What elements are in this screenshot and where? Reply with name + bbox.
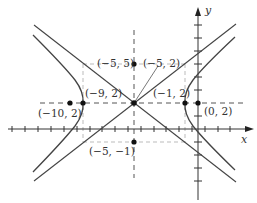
focus-left-point [67, 100, 72, 105]
label-vertex-left: (−9, 2) [85, 87, 122, 99]
y-axis-arrow-icon [195, 7, 201, 16]
label-conj-top: (−5, 5) [97, 57, 134, 69]
focus-right-point [195, 100, 200, 105]
x-axis-label: x [241, 133, 248, 146]
x-axis-arrow-icon [245, 126, 254, 132]
label-focus-left: (−10, 2) [38, 107, 82, 119]
right-branch [185, 37, 235, 170]
conj-bottom-point [131, 139, 136, 144]
y-axis [194, 14, 202, 200]
center-point [131, 100, 137, 106]
hyperbola-diagram: x y (−5, 5) (−5, 2) (−9, 2) (−1, 2) (−10… [0, 0, 257, 203]
label-focus-right: (0, 2) [204, 105, 232, 117]
label-center: (−5, 2) [143, 57, 180, 69]
label-vertex-right: (−1, 2) [153, 87, 190, 99]
vertex-right-point [182, 100, 187, 105]
label-conj-bottom: (−5, −1) [89, 145, 135, 157]
vertex-left-point [80, 100, 85, 105]
y-axis-label: y [204, 4, 212, 17]
x-axis [8, 126, 248, 132]
